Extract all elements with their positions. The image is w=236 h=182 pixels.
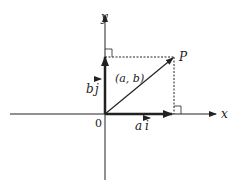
bj-label: b j [86, 79, 101, 96]
vector-op [105, 58, 173, 114]
x-axis-label: x [221, 107, 228, 121]
svg-text:a: a [135, 119, 142, 133]
point-p-label: P [178, 50, 188, 64]
coords-label: (a, b) [115, 72, 144, 85]
right-angle-mark-y [105, 49, 112, 57]
svg-text:i: i [145, 119, 149, 133]
y-axis-label: y [100, 10, 108, 24]
right-angle-mark-x [174, 106, 181, 114]
vector-diagram: y x 0 P (a, b) b j a i [0, 0, 236, 182]
svg-text:b: b [86, 82, 94, 96]
origin-label: 0 [95, 117, 102, 130]
ai-label: a i [135, 118, 150, 133]
